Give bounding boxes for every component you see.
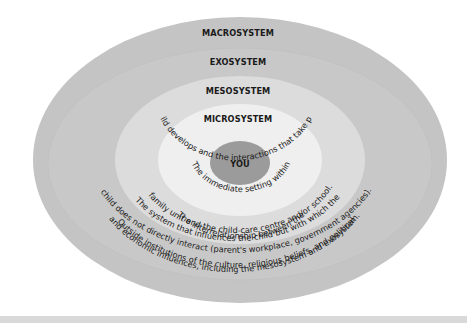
footer-rule [0,316,467,323]
ecological-systems-diagram: MACROSYSTEM EXOSYSTEM MESOSYSTEM MICROSY… [0,0,467,323]
mesosystem-label: MESOSYSTEM [206,86,271,96]
microsystem-label: MICROSYSTEM [204,114,273,124]
exosystem-label: EXOSYSTEM [210,57,267,67]
macrosystem-label: MACROSYSTEM [202,28,274,38]
